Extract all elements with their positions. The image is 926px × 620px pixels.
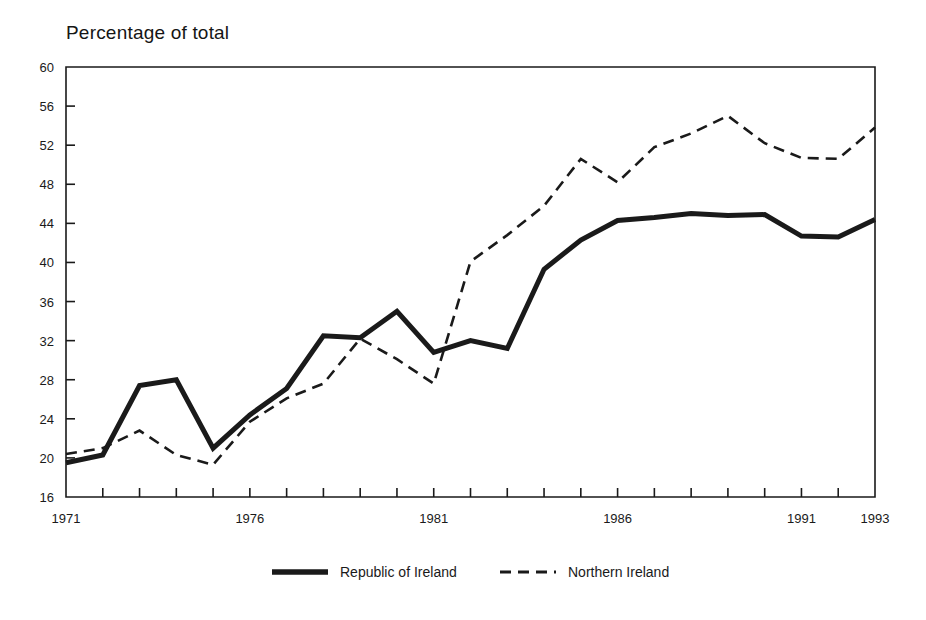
plot-frame	[66, 67, 875, 497]
x-axis-tick-label: 1976	[235, 511, 264, 526]
y-axis-tick-label: 20	[40, 451, 54, 466]
plot-border	[66, 67, 875, 497]
y-axis-tick-label: 32	[40, 334, 54, 349]
y-axis-tick-label: 48	[40, 177, 54, 192]
y-axis-tick-label: 44	[40, 216, 54, 231]
y-axis-tick-label: 28	[40, 373, 54, 388]
y-axis-tick-label: 60	[40, 60, 54, 75]
line-chart-svg: 162024283236404448525660 197119761981198…	[0, 0, 926, 620]
y-axis-tick-label: 24	[40, 412, 54, 427]
legend-label-republic-of-ireland: Republic of Ireland	[340, 564, 457, 580]
chart-legend: Republic of IrelandNorthern Ireland	[272, 564, 669, 580]
y-axis-tick-label: 40	[40, 255, 54, 270]
data-series-group	[66, 116, 875, 465]
chart-container: Percentage of total 16202428323640444852…	[0, 0, 926, 620]
x-axis-tick-label: 1986	[603, 511, 632, 526]
y-axis-tick-label: 36	[40, 295, 54, 310]
series-line-republic-of-ireland	[66, 214, 875, 463]
legend-label-northern-ireland: Northern Ireland	[568, 564, 669, 580]
x-axis-tick-label: 1991	[787, 511, 816, 526]
x-axis-tick-label: 1981	[419, 511, 448, 526]
y-axis-tick-label: 52	[40, 138, 54, 153]
x-axis-tick-label: 1993	[861, 511, 890, 526]
series-line-northern-ireland	[66, 116, 875, 465]
y-axis-tick-label: 16	[40, 490, 54, 505]
x-axis: 197119761981198619911993	[52, 488, 890, 526]
y-axis-tick-label: 56	[40, 99, 54, 114]
y-axis: 162024283236404448525660	[40, 60, 75, 505]
x-axis-tick-label: 1971	[52, 511, 81, 526]
